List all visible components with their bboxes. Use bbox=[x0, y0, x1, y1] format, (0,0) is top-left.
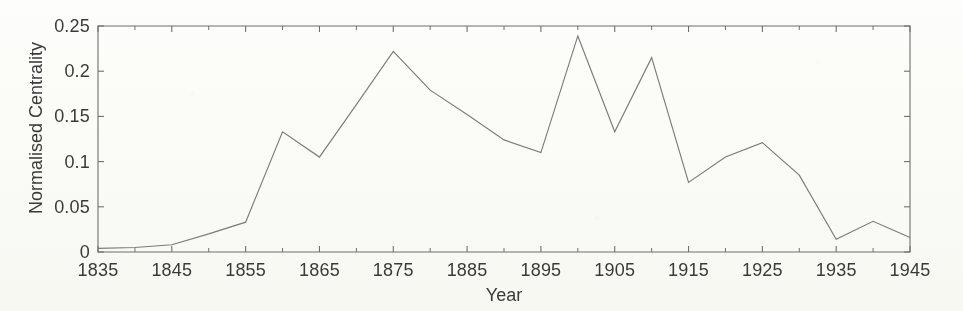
x-axis-tick-label: 1885 bbox=[447, 260, 488, 281]
x-axis-tick-label: 1835 bbox=[78, 260, 119, 281]
y-axis-tick-label: 0 bbox=[0, 242, 90, 263]
y-axis-tick-label: 0.25 bbox=[0, 16, 90, 37]
data-series-normalised-centrality bbox=[98, 36, 910, 248]
x-axis-tick-label: 1945 bbox=[890, 260, 931, 281]
x-axis-tick-label: 1915 bbox=[668, 260, 709, 281]
x-axis-tick-label: 1935 bbox=[816, 260, 857, 281]
x-axis-title: Year bbox=[486, 285, 522, 306]
axis-ticks-group bbox=[98, 26, 910, 252]
x-axis-tick-label: 1875 bbox=[373, 260, 414, 281]
x-axis-tick-label: 1895 bbox=[520, 260, 561, 281]
y-axis-title: Normalised Centrality bbox=[26, 42, 47, 214]
x-axis-tick-label: 1905 bbox=[594, 260, 635, 281]
x-axis-tick-label: 1865 bbox=[299, 260, 340, 281]
x-axis-tick-label: 1845 bbox=[151, 260, 192, 281]
axis-frame bbox=[98, 26, 910, 252]
chart-figure: 00.050.10.150.20.25 18351845185518651875… bbox=[0, 0, 963, 311]
x-axis-tick-label: 1855 bbox=[225, 260, 266, 281]
x-axis-tick-label: 1925 bbox=[742, 260, 783, 281]
